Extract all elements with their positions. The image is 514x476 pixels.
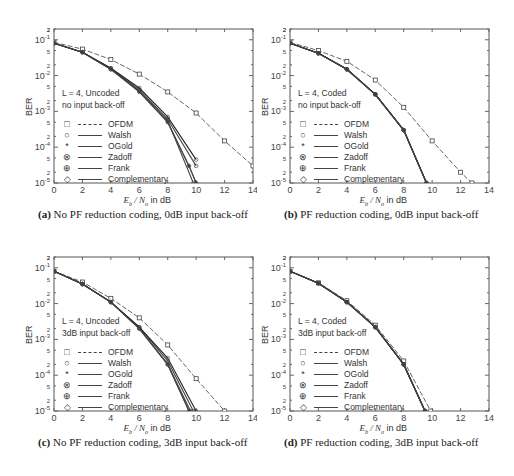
y-tick-label: 10-2 [35,70,51,81]
x-axis-label: Eb / No in dB [124,423,172,435]
legend-item-walsh: ○Walsh [296,358,404,369]
y-tick-label: 10-1 [271,262,287,273]
y-tick-label: 2 [283,327,287,333]
caption-label: (d) [284,436,297,448]
y-tick-label: 2 [47,99,51,105]
y-tick-label: 5 [283,120,287,126]
y-tick-label: 10-1 [35,34,51,45]
legend-item-ogold: *OGold [60,141,168,152]
y-tick-label: 5 [283,348,287,354]
chart-legend: □OFDM○Walsh*OGold⊗Zadoff⊕Frank◇Complemen… [296,347,404,413]
data-point [470,181,474,185]
legend-label: Complementary [108,402,168,413]
y-tick-label: 5 [47,277,51,283]
frank-marker-icon: ⊕ [60,163,74,174]
complementary-marker-icon: ◇ [60,174,74,185]
y-tick-label: 2 [47,291,51,297]
data-point [194,377,198,381]
legend-line-sample [78,179,102,180]
y-tick-label: 2 [47,398,51,404]
legend-item-ofdm: □OFDM [296,347,404,358]
legend-label: Walsh [108,130,131,141]
legend-label: Walsh [344,130,367,141]
x-tick-label: 0 [287,185,292,195]
x-tick-label: 0 [51,185,56,195]
caption-text: PF reduction coding, 0dB input back-off [297,208,478,220]
x-tick-label: 4 [344,185,349,195]
x-tick-label: 2 [316,413,321,423]
y-tick-label: 5 [283,312,287,318]
x-tick-label: 6 [137,185,142,195]
svg-text:2: 2 [47,27,51,33]
x-tick-label: 8 [165,185,170,195]
data-point [137,316,141,320]
y-tick-label: 10-2 [271,70,287,81]
y-tick-label: 2 [47,327,51,333]
annotation-line: L = 4, Uncoded [62,87,125,99]
y-tick-label: 10-1 [271,34,287,45]
legend-label: OGold [108,369,133,380]
legend-line-sample [314,168,338,169]
ofdm-marker-icon: □ [60,119,74,130]
data-point [402,105,406,109]
ofdm-marker-icon: □ [296,119,310,130]
data-point [188,165,191,168]
y-axis-label: BER [24,325,34,344]
panel-annotation: L = 4, Uncoded3dB input back-off [62,315,130,339]
legend-line-sample [78,352,102,353]
x-tick-label: 12 [456,413,466,423]
panel-caption: (b) PF reduction coding, 0dB input back-… [284,208,478,220]
annotation-line: no input back-off [298,99,361,111]
data-point [194,111,198,115]
x-tick-label: 8 [401,185,406,195]
x-tick-label: 6 [373,413,378,423]
chart-panel-d: 10-52510-42510-32510-22510-1220246810121… [257,238,514,476]
zadoff-marker-icon: ⊗ [296,380,310,391]
legend-label: OFDM [108,119,133,130]
panel-annotation: L = 4, Uncodedno input back-off [62,87,125,111]
chart-panel-a: 10-52510-42510-32510-22510-1220246810121… [0,0,257,238]
svg-text:2: 2 [283,255,287,261]
y-tick-label: 10-5 [271,177,287,188]
legend-label: Frank [108,391,130,402]
legend-item-complementary: ◇Complementary [60,174,168,185]
x-tick-label: 14 [484,185,494,195]
x-tick-label: 12 [220,185,230,195]
data-point [166,90,170,94]
zadoff-marker-icon: ⊗ [60,152,74,163]
complementary-marker-icon: ◇ [296,402,310,413]
y-tick-label: 10-5 [271,405,287,416]
legend-item-ofdm: □OFDM [296,119,404,130]
y-tick-label: 5 [283,384,287,390]
annotation-line: 3dB input back-off [62,327,130,339]
zadoff-marker-icon: ⊗ [60,380,74,391]
x-tick-label: 12 [220,413,230,423]
data-point [109,296,113,300]
legend-label: Frank [344,163,366,174]
x-tick-label: 10 [427,185,437,195]
annotation-line: L = 4, Coded [298,315,366,327]
panel-caption: (d) PF reduction coding, 3dB input back-… [284,436,478,448]
legend-label: Zadoff [108,380,132,391]
legend-label: Walsh [108,358,131,369]
x-tick-label: 4 [108,185,113,195]
x-tick-label: 4 [108,413,113,423]
frank-marker-icon: ⊕ [60,391,74,402]
legend-line-sample [314,374,338,375]
y-tick-label: 10-4 [35,141,51,152]
legend-item-zadoff: ⊗Zadoff [296,152,404,163]
y-tick-label: 5 [47,312,51,318]
y-tick-label: 10-5 [35,405,51,416]
x-tick-label: 10 [191,185,201,195]
y-tick-label: 5 [47,49,51,55]
chart-legend: □OFDM○Walsh*OGold⊗Zadoff⊕Frank◇Complemen… [60,347,168,413]
ofdm-marker-icon: □ [60,347,74,358]
x-tick-label: 14 [248,185,257,195]
y-tick-label: 5 [47,384,51,390]
legend-item-walsh: ○Walsh [60,130,168,141]
legend-item-ogold: *OGold [60,369,168,380]
x-tick-label: 10 [427,413,437,423]
legend-line-sample [78,396,102,397]
y-tick-label: 2 [283,99,287,105]
y-tick-label: 2 [283,291,287,297]
